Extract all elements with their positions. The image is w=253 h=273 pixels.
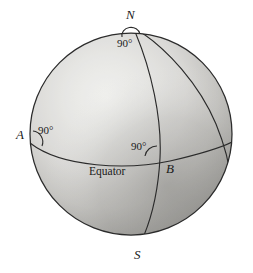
label-angle-at-a: 90° bbox=[38, 125, 53, 136]
label-angle-at-b: 90° bbox=[131, 141, 146, 152]
label-angle-at-n: 90° bbox=[117, 38, 132, 49]
label-south-pole: S bbox=[134, 248, 141, 261]
label-north-pole: N bbox=[126, 8, 135, 21]
label-point-a: A bbox=[16, 128, 24, 141]
label-point-b: B bbox=[166, 162, 174, 175]
sphere-grain bbox=[30, 33, 232, 235]
spherical-geometry-figure: N S A B Equator 90° 90° 90° bbox=[0, 0, 253, 273]
label-equator: Equator bbox=[89, 166, 125, 178]
